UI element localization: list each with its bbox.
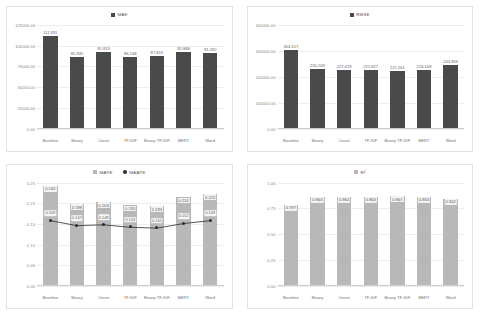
x-axis-category-label: Word: [437, 138, 464, 143]
bar-column[interactable]: 0.222: [197, 183, 224, 287]
y-axis-tick-label: 400000.00: [248, 23, 276, 28]
legend-mape: MAPEMAAPE: [7, 170, 232, 175]
x-axis-labels-mae: BaselineBinaryCountTF-IDFBinary TF-IDFBE…: [37, 138, 224, 143]
bar[interactable]: [337, 197, 351, 286]
bar[interactable]: [390, 196, 404, 286]
legend-swatch-icon: [111, 13, 115, 17]
bar[interactable]: [176, 197, 190, 286]
bar[interactable]: [310, 197, 324, 286]
y-axis-tick-label: 0.00: [248, 126, 276, 131]
legend-item[interactable]: MAPE: [93, 170, 113, 175]
bar-column[interactable]: 0.214: [170, 183, 197, 287]
bar-column[interactable]: 85,945: [64, 25, 91, 129]
bar-column[interactable]: 0.863: [304, 183, 331, 287]
bar-column[interactable]: 221,561: [384, 25, 411, 129]
x-axis-category-label: Word: [197, 138, 224, 143]
bar[interactable]: [417, 197, 431, 286]
x-axis-category-label: Binary TF-IDF: [144, 138, 171, 143]
bar[interactable]: [310, 69, 324, 129]
y-axis-tick-label: 75000.00: [7, 64, 35, 69]
bar[interactable]: [96, 202, 110, 286]
bar[interactable]: [390, 71, 404, 128]
bar-column[interactable]: 91,813: [90, 25, 117, 129]
bar-column[interactable]: 230,209: [304, 25, 331, 129]
gridline: [278, 286, 465, 287]
y-axis-tick-label: 0.00: [7, 284, 35, 289]
bar-column[interactable]: 0.787: [278, 183, 305, 287]
y-axis-tick-label: 200000.00: [248, 74, 276, 79]
plot-area-r2: 0.000.250.500.751.00 0.7870.8630.8620.86…: [278, 183, 465, 287]
x-axis-category-label: BERT: [170, 295, 197, 300]
bar[interactable]: [364, 70, 378, 128]
bar-column[interactable]: 0.193: [144, 183, 171, 287]
bar[interactable]: [337, 70, 351, 129]
bar[interactable]: [150, 56, 164, 129]
bar-column[interactable]: 0.867: [384, 183, 411, 287]
bar-column[interactable]: 92,888: [170, 25, 197, 129]
bar-column[interactable]: 0.242: [37, 183, 64, 287]
bar-column[interactable]: 0.842: [437, 183, 464, 287]
bar-column[interactable]: 244,856: [437, 25, 464, 129]
bar-value-label: 0.842: [445, 199, 457, 205]
bar[interactable]: [284, 50, 298, 129]
panel-rmse: RMSE 0.00100000.00200000.00300000.004000…: [241, 0, 481, 158]
bar-column[interactable]: 0.203: [90, 183, 117, 287]
bar-column[interactable]: 227,619: [331, 25, 358, 129]
x-axis-line: [278, 128, 465, 129]
bar[interactable]: [70, 204, 84, 286]
y-axis-tick-label: 300000.00: [248, 48, 276, 53]
bar[interactable]: [443, 199, 457, 286]
bar-column[interactable]: 0.198: [64, 183, 91, 287]
bar[interactable]: [203, 194, 217, 286]
y-axis-tick-label: 0.10: [7, 242, 35, 247]
bar[interactable]: [203, 53, 217, 129]
legend-item[interactable]: MAAPE: [123, 170, 146, 175]
bar[interactable]: [364, 197, 378, 286]
legend-item[interactable]: R²: [354, 170, 366, 175]
bar-column[interactable]: 0.863: [411, 183, 438, 287]
bar[interactable]: [284, 205, 298, 286]
bar-column[interactable]: 91,282: [197, 25, 224, 129]
bar[interactable]: [150, 206, 164, 286]
gridline: [278, 129, 465, 130]
x-axis-category-label: TF-IDF: [357, 138, 384, 143]
x-axis-category-label: BERT: [170, 138, 197, 143]
y-axis-tick-label: 0.00: [7, 126, 35, 131]
legend-item[interactable]: RMSE: [350, 12, 370, 17]
bar-value-label: 0.203: [97, 202, 109, 208]
bar-column[interactable]: 0.862: [331, 183, 358, 287]
y-axis-tick-label: 125000.00: [7, 23, 35, 28]
bar[interactable]: [43, 186, 57, 286]
bar-value-label: 227,619: [337, 64, 352, 69]
chart-grid: MAE 0.0025000.0050000.0075000.00100000.0…: [0, 0, 481, 315]
bar-value-label: 230,209: [310, 63, 325, 68]
x-axis-category-label: TF-IDF: [117, 138, 144, 143]
legend-item[interactable]: MAE: [111, 12, 128, 17]
x-axis-category-label: Baseline: [37, 138, 64, 143]
bar[interactable]: [70, 57, 84, 128]
legend-label: MAE: [117, 12, 127, 17]
chart-card-mae: MAE 0.0025000.0050000.0075000.00100000.0…: [6, 6, 233, 152]
bar-column[interactable]: 0.863: [357, 183, 384, 287]
legend-swatch-icon: [350, 13, 354, 17]
x-axis-category-label: Binary TF-IDF: [144, 295, 171, 300]
bar-column[interactable]: 304,317: [278, 25, 305, 129]
bar-column[interactable]: 226,168: [411, 25, 438, 129]
gridline: [37, 129, 224, 130]
bar-column[interactable]: 225,827: [357, 25, 384, 129]
bar-column[interactable]: 111,931: [37, 25, 64, 129]
bar-column[interactable]: 87,824: [144, 25, 171, 129]
bar[interactable]: [123, 57, 137, 129]
y-axis-tick-label: 1.00: [248, 180, 276, 185]
bar[interactable]: [123, 205, 137, 286]
bar[interactable]: [96, 52, 110, 128]
bar-value-label: 226,168: [417, 64, 432, 69]
bar[interactable]: [417, 70, 431, 129]
bar-column[interactable]: 86,548: [117, 25, 144, 129]
bar[interactable]: [176, 52, 190, 129]
bar[interactable]: [443, 65, 457, 128]
x-axis-category-label: Word: [437, 295, 464, 300]
bar[interactable]: [43, 36, 57, 129]
x-axis-category-label: BERT: [411, 138, 438, 143]
bar-column[interactable]: 0.195: [117, 183, 144, 287]
